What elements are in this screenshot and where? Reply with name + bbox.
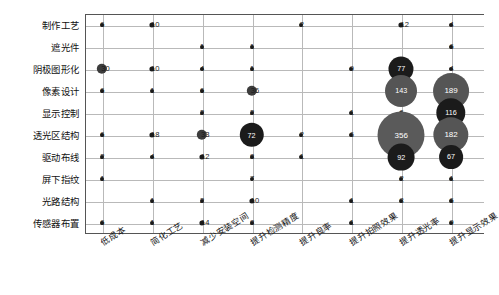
y-axis-label: 阴极图形化 [0,62,79,76]
cell-value-label: 2 [400,175,404,183]
bubble-value-label: 189 [444,87,457,95]
cell-value-empty: 0 [200,175,204,183]
bubble-value-label: 143 [395,87,407,94]
bubble-value-label: 182 [444,131,457,139]
y-axis-label: 透光区结构 [0,128,79,142]
cell-value-empty: 0 [349,43,353,51]
cell-value-empty: 0 [249,21,253,29]
cell-value-label: 10 [151,65,159,73]
y-axis-label-text: 传感器布置 [33,218,79,229]
y-axis-label: 屏下指纹 [0,172,79,186]
cell-value-label: 1 [350,109,354,117]
gridline-horizontal [86,48,484,49]
cell-value-empty: 0 [399,43,403,51]
y-axis-label: 像素设计 [0,84,79,98]
cell-value-label: 8 [250,219,254,227]
cell-value-label: 33 [201,131,209,139]
cell-value-empty: 0 [100,197,104,205]
cell-value-label: 1 [250,65,254,73]
y-axis-label-text: 显示控制 [42,108,79,119]
cell-value-label: 1 [200,43,204,51]
cell-value-empty: 0 [100,43,104,51]
y-axis-label: 制作工艺 [0,18,79,32]
cell-value-empty: 0 [349,153,353,161]
bubble-value-label: 77 [397,65,405,72]
cell-value-label: 6 [100,131,104,139]
cell-value-label: 6 [449,43,453,51]
cell-value-empty: 0 [150,109,154,117]
y-axis-label-text: 屏下指纹 [42,174,79,185]
cell-value-label: 6 [100,21,104,29]
cell-value-empty: 0 [349,175,353,183]
cell-value-label: 2 [200,197,204,205]
y-axis-label-text: 像素设计 [42,86,79,97]
cell-value-label: 30 [101,65,109,73]
cell-value-label: 12 [400,21,408,29]
cell-value-empty: 0 [299,175,303,183]
cell-value-label: 4 [150,153,154,161]
cell-value-label: 2 [250,109,254,117]
cell-value-label: 36 [251,87,259,95]
gridline-horizontal [86,202,484,203]
cell-value-label: 1 [350,197,354,205]
cell-value-label: 1 [100,175,104,183]
cell-value-label: 8 [400,197,404,205]
cell-value-label: 1 [150,87,154,95]
bubble-marker: 67 [439,145,463,169]
cell-value-label: 14 [201,219,209,227]
cell-value-empty: 0 [299,109,303,117]
cell-value-label: 6 [100,87,104,95]
cell-value-label: 7 [250,175,254,183]
cell-value-label: 6 [449,197,453,205]
cell-value-label: 1 [449,175,453,183]
cell-value-empty: 0 [299,65,303,73]
cell-value-empty: 0 [349,87,353,95]
cell-value-empty: 0 [299,43,303,51]
cell-value-empty: 0 [299,87,303,95]
cell-value-label: 1 [350,219,354,227]
cell-value-empty: 0 [299,197,303,205]
y-axis-label: 显示控制 [0,106,79,120]
bubble-value-label: 72 [248,131,256,138]
cell-value-label: 9 [449,219,453,227]
cell-value-label: 12 [201,153,209,161]
cell-value-label: 8 [250,153,254,161]
cell-value-label: 2 [300,131,304,139]
cell-value-label: 1 [300,153,304,161]
cell-value-label: 4 [449,21,453,29]
cell-value-label: 9 [350,65,354,73]
bubble-value-label: 116 [445,109,456,116]
gridline-horizontal [86,158,484,159]
cell-value-label: 1 [150,219,154,227]
gridline-horizontal [86,70,484,71]
cell-value-label: 2 [200,109,204,117]
y-axis-label-text: 制作工艺 [42,20,79,31]
y-axis-label: 传感器布置 [0,216,79,230]
cell-value-label: 6 [350,131,354,139]
cell-value-label: 2 [100,153,104,161]
y-axis-label-text: 光路结构 [42,196,79,207]
gridline-horizontal [86,92,484,93]
cell-value-label: 2 [300,21,304,29]
bubble-value-label: 356 [395,131,408,139]
y-axis-label: 遮光件 [0,40,79,54]
cell-value-label: 4 [449,65,453,73]
gridline-horizontal [86,180,484,181]
cell-value-label: 6 [100,219,104,227]
plot-area [85,14,484,234]
y-axis-label-text: 遮光件 [51,42,79,53]
cell-value-empty: 0 [150,43,154,51]
gridline-horizontal [86,114,484,115]
cell-value-label: 6 [200,87,204,95]
y-axis-label-text: 驱动布线 [42,152,79,163]
cell-value-label: 18 [151,131,159,139]
y-axis-label: 光路结构 [0,194,79,208]
cell-value-label: 1 [250,43,254,51]
cell-value-empty: 0 [200,21,204,29]
cell-value-empty: 0 [399,219,403,227]
cell-value-empty: 0 [150,175,154,183]
cell-value-label: 10 [151,21,159,29]
bubble-marker: 92 [388,144,415,171]
cell-value-label: 10 [251,197,259,205]
